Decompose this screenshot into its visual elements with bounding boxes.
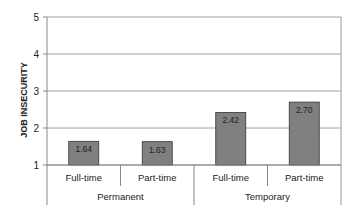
job-insecurity-bar-chart: 12345 1.641.632.422.70 Full-timePart-tim…	[0, 0, 360, 216]
x-group-label: Permanent	[97, 191, 144, 202]
x-category-label: Full-time	[213, 172, 249, 183]
y-tick-label: 5	[33, 12, 39, 23]
y-tick-label: 1	[33, 160, 39, 171]
y-tick-label: 4	[33, 49, 39, 60]
x-group-label: Temporary	[245, 191, 290, 202]
bar-value-label: 1.64	[75, 144, 92, 154]
y-axis-ticks: 12345	[33, 12, 47, 171]
y-tick-label: 2	[33, 123, 39, 134]
bar-value-label: 2.70	[296, 105, 313, 115]
y-tick-label: 3	[33, 86, 39, 97]
bar-value-label: 1.63	[149, 145, 166, 155]
x-category-label: Full-time	[66, 172, 102, 183]
y-axis-label: JOB INSECURITY	[19, 62, 29, 138]
bars: 1.641.632.422.70	[69, 102, 320, 165]
bar-value-label: 2.42	[222, 115, 239, 125]
x-category-label: Part-time	[138, 172, 177, 183]
x-category-label: Part-time	[285, 172, 324, 183]
